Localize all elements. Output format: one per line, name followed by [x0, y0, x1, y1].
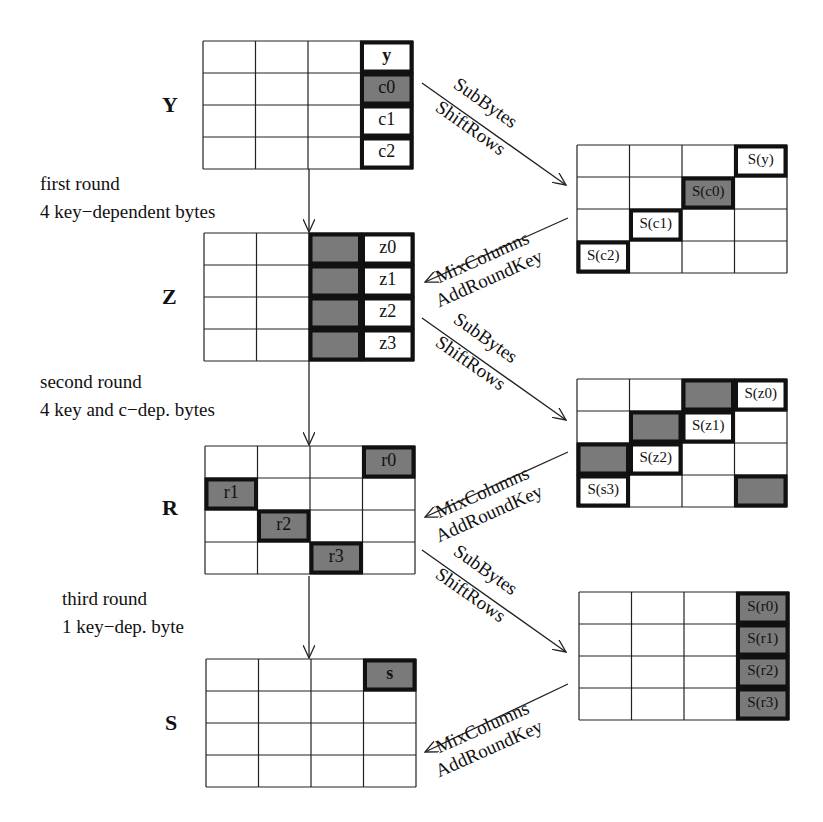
state-label-z: Z [162, 284, 177, 310]
cell-value: S(r0) [737, 598, 790, 615]
diagonal-arrows [422, 83, 568, 752]
round-note-detail: 4 key−dependent bytes [40, 198, 215, 226]
round-note-third: third round 1 key−dep. byte [62, 585, 184, 641]
shaded-cell [577, 443, 630, 475]
round-note-title: first round [40, 170, 215, 198]
shaded-cell [309, 297, 362, 329]
cell-value: z2 [362, 301, 415, 322]
state-label-r: R [162, 495, 178, 521]
round-note-title: third round [62, 585, 184, 613]
shaded-cell [309, 233, 362, 265]
cell-value: S(r1) [737, 630, 790, 647]
shaded-cell [735, 475, 788, 507]
shaded-cell [682, 379, 735, 411]
cell-value: c1 [361, 109, 414, 130]
cell-value: r3 [310, 546, 363, 567]
cell-value: z3 [362, 333, 415, 354]
cell-value: S(c1) [630, 215, 683, 232]
shaded-cell [309, 329, 362, 361]
cell-value: S(y) [735, 151, 788, 168]
cell-value: S(r3) [737, 694, 790, 711]
cell-value: z1 [362, 269, 415, 290]
round-note-title: second round [40, 368, 215, 396]
cell-value: S(c0) [682, 183, 735, 200]
state-label-s: S [165, 710, 177, 736]
round-note-first: first round 4 key−dependent bytes [40, 170, 215, 226]
cell-value: S(z0) [735, 385, 788, 402]
cell-value: S(c2) [577, 247, 630, 264]
shaded-cell [630, 411, 683, 443]
cell-value: S(z2) [630, 449, 683, 466]
state-label-y: Y [162, 92, 178, 118]
cell-value: r0 [363, 450, 416, 471]
cell-value: z0 [362, 237, 415, 258]
cell-value: y [361, 45, 414, 66]
cell-value: r2 [258, 514, 311, 535]
cell-value: S(r2) [737, 662, 790, 679]
round-note-detail: 4 key and c−dep. bytes [40, 396, 215, 424]
cell-value: s [364, 663, 417, 684]
round-note-detail: 1 key−dep. byte [62, 613, 184, 641]
shaded-cell [309, 265, 362, 297]
cell-value: c0 [361, 77, 414, 98]
cell-value: S(z1) [682, 417, 735, 434]
cell-value: S(s3) [577, 481, 630, 498]
cell-value: c2 [361, 141, 414, 162]
aes-round-diagram: yc0c1c2z0z1z2z3r0r1r2r3sS(y)S(c0)S(c1)S(… [0, 0, 823, 822]
round-note-second: second round 4 key and c−dep. bytes [40, 368, 215, 424]
cell-value: r1 [205, 482, 258, 503]
